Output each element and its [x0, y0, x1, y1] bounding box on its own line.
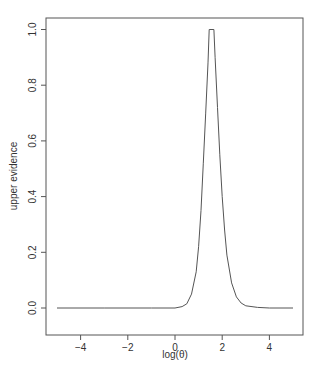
y-tick-label: 0.8 — [27, 78, 38, 92]
y-tick-label: 0.6 — [27, 134, 38, 148]
y-axis-label: upper evidence — [8, 141, 19, 210]
y-tick-label: 0.4 — [27, 189, 38, 203]
x-axis-label: log(θ) — [162, 349, 188, 360]
x-tick-label: −4 — [75, 342, 87, 353]
line-chart: 0.00.20.40.60.81.0 −4−2024 log(θ) upper … — [0, 0, 319, 368]
y-tick-label: 0.2 — [27, 245, 38, 259]
x-tick-label: 4 — [267, 342, 273, 353]
plot-box — [46, 18, 303, 335]
x-tick-label: −2 — [122, 342, 134, 353]
evidence-curve — [57, 30, 293, 309]
y-axis-ticks: 0.00.20.40.60.81.0 — [27, 22, 46, 315]
y-tick-label: 0.0 — [27, 301, 38, 315]
x-tick-label: 2 — [219, 342, 225, 353]
y-tick-label: 1.0 — [27, 22, 38, 36]
